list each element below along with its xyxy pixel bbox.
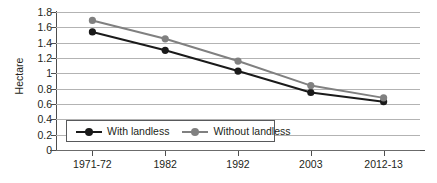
- data-point-marker: [307, 82, 314, 89]
- y-tick-mark: [51, 119, 56, 120]
- legend-marker-icon: [76, 126, 102, 136]
- x-tick-label: 1971-72: [73, 158, 112, 170]
- legend-label: With landless: [107, 125, 169, 137]
- y-tick-mark: [51, 27, 56, 28]
- y-tick-label: 0.6: [22, 99, 52, 110]
- legend-marker-icon: [182, 126, 208, 136]
- chart-figure: Hectare 00.20.40.60.811.21.41.61.8 1971-…: [0, 0, 437, 183]
- y-tick-label: 0.8: [22, 84, 52, 95]
- y-tick-mark: [51, 43, 56, 44]
- y-tick-mark: [51, 89, 56, 90]
- x-tick-mark: [92, 151, 93, 156]
- legend-label: Without landless: [213, 125, 290, 137]
- y-tick-label: 1.6: [22, 22, 52, 33]
- y-tick-label: 1.4: [22, 38, 52, 49]
- data-point-marker: [307, 89, 314, 96]
- y-tick-label: 0.4: [22, 114, 52, 125]
- y-tick-mark: [51, 104, 56, 105]
- x-tick-label: 1982: [154, 158, 177, 170]
- y-tick-label: 1: [22, 68, 52, 79]
- x-tick-mark: [311, 151, 312, 156]
- y-tick-label: 0: [22, 145, 52, 156]
- data-point-marker: [234, 57, 241, 64]
- x-tick-mark: [238, 151, 239, 156]
- chart-legend: With landlessWithout landless: [66, 120, 275, 142]
- y-axis-tick-labels: 00.20.40.60.811.21.41.61.8: [18, 0, 52, 183]
- legend-entry: Without landless: [182, 125, 290, 137]
- data-point-marker: [380, 94, 387, 101]
- x-tick-label: 2012-13: [364, 158, 403, 170]
- legend-entry: With landless: [76, 125, 169, 137]
- y-tick-mark: [51, 73, 56, 74]
- x-tick-mark: [384, 151, 385, 156]
- y-tick-label: 1.2: [22, 53, 52, 64]
- y-tick-mark: [51, 12, 56, 13]
- y-tick-label: 1.8: [22, 7, 52, 18]
- y-tick-mark: [51, 58, 56, 59]
- x-tick-label: 1992: [226, 158, 249, 170]
- x-tick-mark: [165, 151, 166, 156]
- y-tick-mark: [51, 150, 56, 151]
- y-tick-mark: [51, 135, 56, 136]
- data-point-marker: [89, 17, 96, 24]
- data-point-marker: [234, 67, 241, 74]
- data-point-marker: [162, 35, 169, 42]
- data-point-marker: [89, 28, 96, 35]
- x-tick-label: 2003: [299, 158, 322, 170]
- y-tick-label: 0.2: [22, 130, 52, 141]
- data-point-marker: [162, 47, 169, 54]
